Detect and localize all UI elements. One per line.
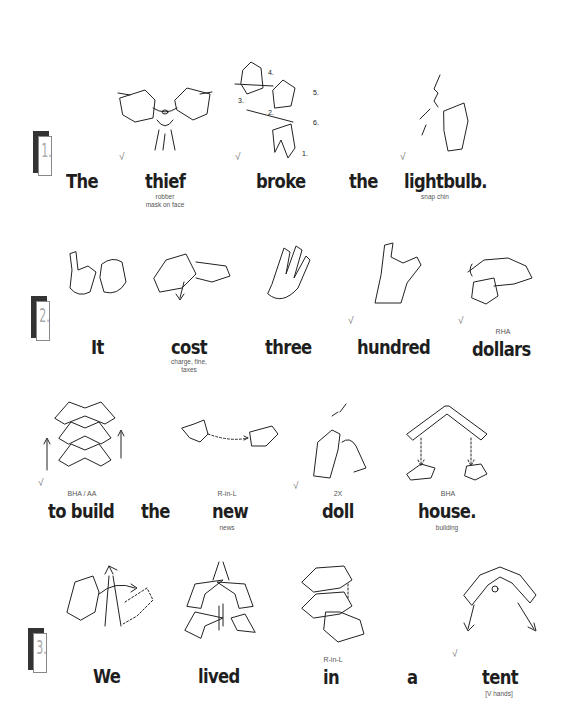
sign-illustration-cost xyxy=(152,248,232,303)
sign-illustration-in xyxy=(300,562,380,642)
sign-illustration-new xyxy=(180,420,280,455)
step-label: 6. xyxy=(313,119,319,126)
word-a: a xyxy=(407,666,417,688)
step-label: 2. xyxy=(268,109,274,116)
note-lightbulb: snap chin xyxy=(410,193,460,201)
word-the: the xyxy=(349,170,378,192)
sign-illustration-tent xyxy=(460,565,540,635)
sign-illustration-it xyxy=(68,252,128,300)
sentence-number-3: 3. xyxy=(36,635,44,659)
word-new: new xyxy=(212,500,248,522)
check-mark: √ xyxy=(348,315,354,326)
annotation-bha-aa: BHA / AA xyxy=(62,490,102,497)
annotation-r-in-l: R-in-L xyxy=(318,656,348,663)
sentence-number-2: 2. xyxy=(39,303,47,327)
word-the: The xyxy=(66,170,98,192)
check-mark: √ xyxy=(119,151,125,162)
word-tent: tent xyxy=(482,666,518,688)
step-label: 5. xyxy=(313,89,319,96)
sign-illustration-broke xyxy=(233,58,328,163)
word-thief: thief xyxy=(145,170,185,192)
sign-illustration-dollars xyxy=(464,250,534,310)
note-house: building xyxy=(430,524,464,532)
word-to-build: to build xyxy=(48,500,114,522)
word-house: house. xyxy=(418,500,476,522)
sign-illustration-lived xyxy=(183,560,258,642)
word-broke: broke xyxy=(256,170,305,192)
word-lightbulb: lightbulb. xyxy=(404,170,487,192)
word-cost: cost xyxy=(171,336,207,358)
sentence-number-1: 1. xyxy=(41,138,49,162)
sign-illustration-thief xyxy=(115,80,215,150)
annotation-bha: BHA xyxy=(436,490,460,497)
step-label: 1. xyxy=(302,150,308,157)
step-label: 4. xyxy=(268,69,274,76)
annotation-2x: 2X xyxy=(330,490,346,497)
word-dollars: dollars xyxy=(472,338,531,360)
check-mark: √ xyxy=(400,151,406,162)
word-the: the xyxy=(141,500,170,522)
check-mark: √ xyxy=(293,480,299,491)
sentence-number-badge-2: 2. xyxy=(31,296,55,340)
sign-illustration-lightbulb xyxy=(420,75,470,155)
sign-illustration-we xyxy=(65,562,155,637)
check-mark: √ xyxy=(458,315,464,326)
check-mark: √ xyxy=(235,151,241,162)
check-mark: √ xyxy=(38,477,44,488)
annotation-rha: RHA xyxy=(490,328,516,335)
sign-illustration-three xyxy=(262,244,312,304)
word-doll: doll xyxy=(322,500,354,522)
note-tent: [V hands] xyxy=(480,690,518,698)
word-we: We xyxy=(93,665,120,687)
sentence-number-badge-3: 3. xyxy=(28,628,52,672)
sign-illustration-doll xyxy=(310,402,375,482)
word-hundred: hundred xyxy=(357,336,430,358)
note-new: news xyxy=(215,524,239,532)
check-mark: √ xyxy=(452,648,458,659)
word-in: in xyxy=(323,666,339,688)
word-lived: lived xyxy=(198,665,240,687)
annotation-r-in-l: R-in-L xyxy=(212,490,242,497)
note-cost: charge, fine, taxes xyxy=(164,358,214,374)
step-label: 3. xyxy=(238,97,244,104)
note-thief: robber mask on face xyxy=(135,193,195,209)
sign-illustration-to-build xyxy=(45,398,125,476)
sign-illustration-hundred xyxy=(373,243,423,305)
word-it: It xyxy=(91,336,104,358)
word-three: three xyxy=(265,336,312,358)
sign-illustration-house xyxy=(405,402,490,482)
sentence-number-badge-1: 1. xyxy=(33,131,57,175)
